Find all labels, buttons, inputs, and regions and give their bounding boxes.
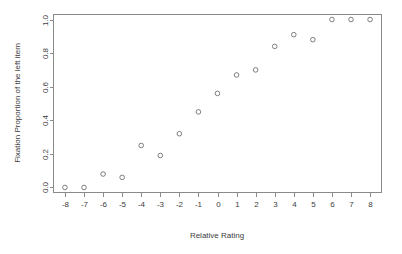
y-tick-label: 0.6 <box>41 81 50 93</box>
x-tick-label: -3 <box>157 200 165 209</box>
x-tick-label: -8 <box>62 200 70 209</box>
y-tick-label: 0.4 <box>41 114 50 126</box>
figure-background <box>0 0 402 254</box>
x-tick-label: -7 <box>81 200 89 209</box>
x-tick-label: -5 <box>119 200 127 209</box>
x-tick-label: 0 <box>216 200 221 209</box>
y-tick-label: 0.8 <box>41 47 50 59</box>
x-tick-label: 5 <box>311 200 316 209</box>
y-tick-label: 1.0 <box>41 14 50 26</box>
chart-canvas: -8-7-6-5-4-3-2-1012345678 0.00.20.40.60.… <box>0 0 402 254</box>
x-tick-label: 2 <box>254 200 259 209</box>
y-tick-label: 0.0 <box>41 181 50 193</box>
x-tick-label: 8 <box>368 200 373 209</box>
x-axis-title: Relative Rating <box>190 231 244 240</box>
x-tick-label: 7 <box>349 200 354 209</box>
x-tick-label: -6 <box>100 200 108 209</box>
x-tick-label: -1 <box>195 200 203 209</box>
y-tick-label: 0.2 <box>41 148 50 160</box>
x-tick-label: -4 <box>138 200 146 209</box>
scatter-plot-figure: -8-7-6-5-4-3-2-1012345678 0.00.20.40.60.… <box>0 0 402 254</box>
x-tick-label: -2 <box>176 200 184 209</box>
x-tick-label: 1 <box>235 200 240 209</box>
x-tick-label: 4 <box>292 200 297 209</box>
y-axis-title: Fixation Proportion of the left item <box>13 43 22 163</box>
x-tick-label: 6 <box>330 200 335 209</box>
x-tick-label: 3 <box>273 200 278 209</box>
